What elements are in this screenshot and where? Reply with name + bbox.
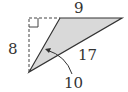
label-hypotenuse: 17 [78,46,97,64]
right-angle-marker [29,18,38,27]
shaded-triangle [29,18,122,72]
label-left: 8 [8,40,18,58]
triangle-diagram: 9 8 17 10 [0,0,128,92]
label-top: 9 [74,0,84,17]
label-bottom: 10 [64,74,83,92]
